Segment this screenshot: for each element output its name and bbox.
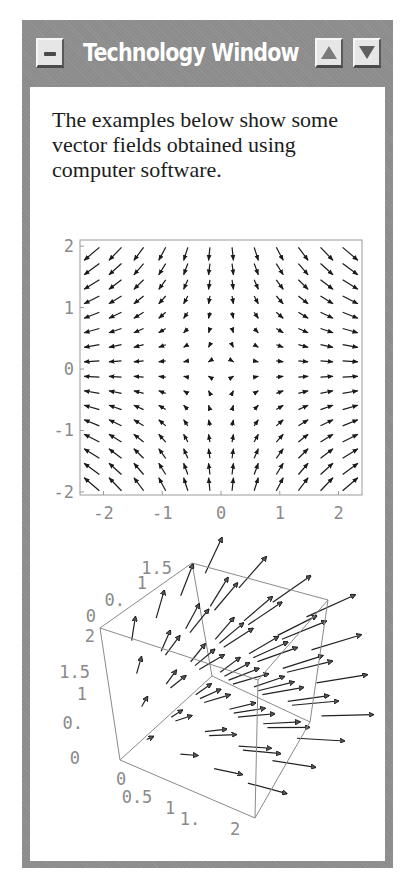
axis-tick-label: 1 [77,684,87,704]
box-edge [255,722,310,818]
axis-tick-label: 0 [116,769,126,789]
axis-tick-label: 1 [165,798,175,818]
axis-tick-label: 1.5 [141,558,172,578]
minimize-button[interactable] [36,38,64,68]
axis-tick-label: 2 [85,626,95,646]
technology-window: Technology Window The examples below sho… [22,20,393,868]
scroll-up-button[interactable] [315,38,343,68]
box-edge [192,563,328,600]
axis-tick-label: 0 [70,748,80,768]
title-bar: Technology Window [22,20,393,87]
window-title: Technology Window [83,37,299,69]
box-edge [120,676,212,760]
minus-icon [44,52,56,56]
box-edge [100,628,120,760]
scroll-down-button[interactable] [353,38,381,68]
vector-field-3d-plot: 00.511.200.11.5200.11.5 [30,87,385,861]
window-content: The examples below show some vector fiel… [30,87,385,861]
axis-tick-label: 0.5 [122,787,153,807]
axis-tick-label: 0 [86,606,96,626]
box-edge [255,680,258,818]
axis-tick-label: 1.5 [59,662,90,682]
axis-tick-label: 0. [63,713,83,733]
axis-tick-label: 0. [105,590,125,610]
triangle-down-icon [359,46,375,59]
triangle-up-icon [321,46,337,59]
axis-tick-label: 2 [230,819,240,839]
axis-tick-label: 1. [180,809,200,829]
